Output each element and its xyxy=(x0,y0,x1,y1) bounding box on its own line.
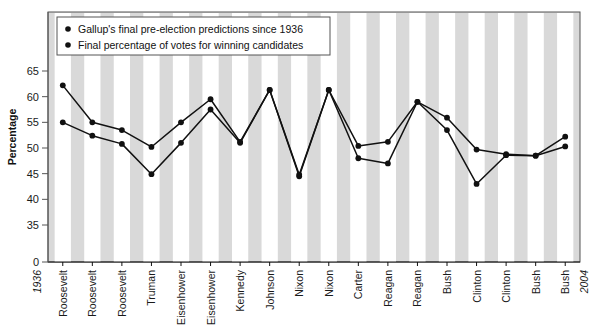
data-point-s0-4 xyxy=(178,140,184,146)
data-point-s0-3 xyxy=(149,171,155,177)
data-point-s0-0 xyxy=(60,119,66,125)
data-point-s1-10 xyxy=(355,143,361,149)
data-point-s1-11 xyxy=(385,139,391,145)
y-tick-label-60: 60 xyxy=(27,91,39,103)
data-point-s1-16 xyxy=(533,153,539,159)
stripe-12 xyxy=(409,13,425,262)
y-tick-label-65: 65 xyxy=(27,65,39,77)
data-point-s0-1 xyxy=(89,133,95,139)
legend-label-1: Final percentage of votes for winning ca… xyxy=(78,39,303,51)
x-axis-label-0: Roosevelt xyxy=(57,270,69,317)
data-point-s1-1 xyxy=(89,119,95,125)
legend-label-0: Gallup's final pre-election predictions … xyxy=(78,23,303,35)
y-tick-label-35: 35 xyxy=(27,219,39,231)
x-axis-label-11: Reagan xyxy=(382,270,394,307)
data-point-s1-15 xyxy=(503,151,509,157)
data-point-s1-12 xyxy=(415,99,421,105)
stripe-16 xyxy=(528,13,544,262)
data-point-s1-17 xyxy=(562,134,568,140)
data-point-s1-8 xyxy=(296,172,302,178)
x-axis-category-labels: RooseveltRooseveltRooseveltTrumanEisenho… xyxy=(57,269,571,325)
y-axis-title: Percentage xyxy=(6,109,18,166)
x-axis-label-2: Roosevelt xyxy=(116,270,128,317)
x-axis-label-3: Truman xyxy=(145,270,157,306)
data-point-s1-5 xyxy=(208,96,214,102)
y-axis-ticks: 035404550556065 xyxy=(27,65,48,268)
x-axis-end-label: 2004 xyxy=(578,270,590,295)
x-axis-label-7: Johnson xyxy=(264,270,276,310)
x-axis-label-8: Nixon xyxy=(293,270,305,297)
data-point-s1-4 xyxy=(178,119,184,125)
data-point-s0-14 xyxy=(474,181,480,187)
x-axis-label-16: Bush xyxy=(530,270,542,294)
stripe-15 xyxy=(498,13,514,262)
x-axis-label-14: Clinton xyxy=(471,270,483,303)
chart-canvas: 035404550556065 RooseveltRooseveltRoosev… xyxy=(0,0,603,327)
data-point-s1-6 xyxy=(237,139,243,145)
x-axis-label-13: Bush xyxy=(441,270,453,294)
stripe-13 xyxy=(439,13,455,262)
y-tick-label-55: 55 xyxy=(27,116,39,128)
x-axis-label-12: Reagan xyxy=(411,270,423,307)
x-axis-label-6: Kennedy xyxy=(234,269,246,311)
data-point-s0-2 xyxy=(119,141,125,147)
y-tick-label-45: 45 xyxy=(27,168,39,180)
data-point-s0-17 xyxy=(562,144,568,150)
stripe-10 xyxy=(350,13,366,262)
x-axis-label-10: Carter xyxy=(352,270,364,300)
chart-legend: Gallup's final pre-election predictions … xyxy=(57,17,330,55)
legend-marker-icon-1 xyxy=(65,42,71,48)
data-point-s0-13 xyxy=(444,127,450,133)
data-point-s1-3 xyxy=(149,144,155,150)
data-point-s0-10 xyxy=(355,155,361,161)
y-tick-label-40: 40 xyxy=(27,193,39,205)
x-axis-label-17: Bush xyxy=(559,270,571,294)
data-point-s1-13 xyxy=(444,115,450,121)
x-axis-start-label: 1936 xyxy=(31,270,43,294)
data-point-s0-11 xyxy=(385,161,391,167)
stripe-14 xyxy=(468,13,484,262)
y-tick-label-50: 50 xyxy=(27,142,39,154)
stripe-11 xyxy=(380,13,396,262)
data-point-s1-9 xyxy=(326,87,332,93)
x-axis-label-15: Clinton xyxy=(500,270,512,303)
gallup-prediction-chart: 035404550556065 RooseveltRooseveltRoosev… xyxy=(0,0,603,327)
x-axis-label-4: Eisenhower xyxy=(175,270,187,325)
legend-marker-icon-0 xyxy=(65,26,71,32)
y-tick-label-0: 0 xyxy=(33,256,39,268)
x-axis-label-1: Roosevelt xyxy=(86,270,98,317)
data-point-s1-7 xyxy=(267,87,273,93)
x-axis-label-5: Eisenhower xyxy=(205,270,217,325)
x-axis-label-9: Nixon xyxy=(323,270,335,297)
data-point-s1-14 xyxy=(474,147,480,153)
data-point-s0-5 xyxy=(208,107,214,113)
data-point-s1-2 xyxy=(119,127,125,133)
data-point-s1-0 xyxy=(60,82,66,88)
